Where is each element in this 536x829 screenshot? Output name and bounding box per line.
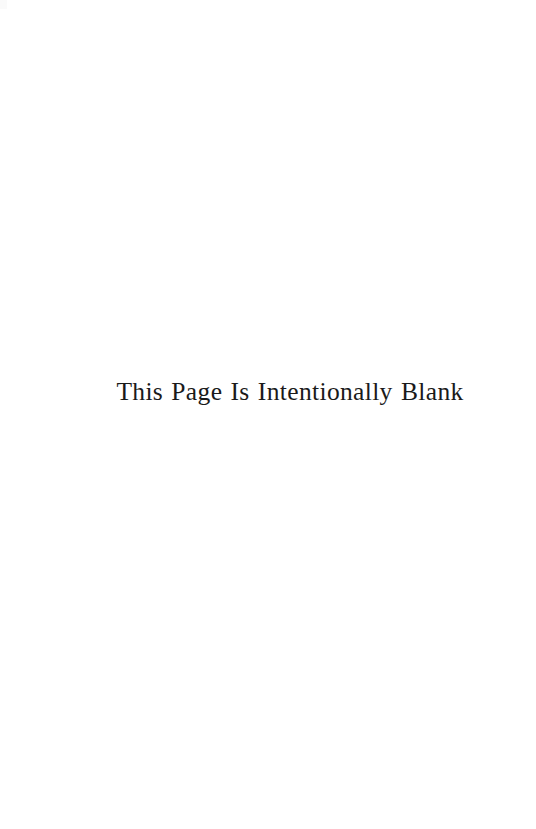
blank-notice-text: This Page Is Intentionally Blank: [116, 377, 463, 407]
intentionally-blank-notice: This Page Is Intentionally Blank: [0, 377, 536, 407]
document-page: This Page Is Intentionally Blank: [0, 0, 536, 829]
scan-artifact-corner: [0, 0, 7, 9]
